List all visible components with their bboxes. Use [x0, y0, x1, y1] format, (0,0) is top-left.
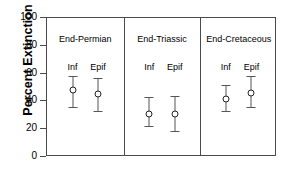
data-point-marker — [222, 95, 229, 102]
y-axis-tick-label: 80 — [0, 40, 37, 50]
errorbar-cap-lower — [68, 107, 77, 108]
series-label-inf: Inf — [68, 62, 78, 72]
data-point-marker — [69, 87, 76, 94]
data-point-marker — [171, 110, 178, 117]
errorbar-cap-upper — [247, 76, 256, 77]
series-label-epif: Epif — [244, 62, 260, 72]
panel-title-end-cretaceous: End-Cretaceous — [206, 34, 271, 44]
y-axis-tick-label: 40 — [0, 95, 37, 105]
plot-area: End-PermianInfEpifEnd-TriassicInfEpifEnd… — [46, 17, 276, 156]
panel-divider — [200, 18, 201, 155]
series-label-epif: Epif — [167, 62, 183, 72]
errorbar-cap-lower — [247, 107, 256, 108]
errorbar-cap-lower — [221, 111, 230, 112]
y-axis-tick — [40, 156, 46, 157]
errorbar-cap-lower — [145, 126, 154, 127]
errorbar-cap-lower — [170, 131, 179, 132]
y-axis-tick-label: 20 — [0, 123, 37, 133]
errorbar-cap-upper — [170, 96, 179, 97]
panel-divider — [124, 18, 125, 155]
errorbar-cap-upper — [68, 76, 77, 77]
panel-title-end-permian: End-Permian — [59, 34, 112, 44]
errorbar-cap-upper — [145, 97, 154, 98]
data-point-marker — [95, 91, 102, 98]
y-axis-tick-label: 60 — [0, 68, 37, 78]
errorbar-cap-lower — [94, 111, 103, 112]
errorbar-cap-upper — [94, 78, 103, 79]
y-axis-tick-label: 0 — [0, 151, 37, 161]
series-label-epif: Epif — [90, 62, 106, 72]
panel-title-end-triassic: End-Triassic — [137, 34, 187, 44]
errorbar-cap-upper — [221, 85, 230, 86]
extinction-figure: Percent Extinction 020406080100 End-Perm… — [0, 0, 285, 170]
series-label-inf: Inf — [221, 62, 231, 72]
series-label-inf: Inf — [144, 62, 154, 72]
data-point-marker — [146, 110, 153, 117]
data-point-marker — [248, 90, 255, 97]
y-axis-tick-label: 100 — [0, 12, 37, 22]
